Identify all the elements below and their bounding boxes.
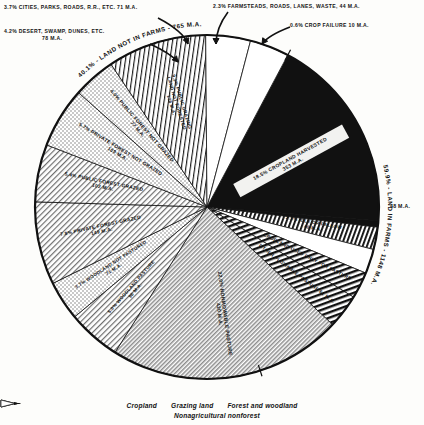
callout-desert: 4.2% DESERT, SWAMP, DUNES, ETC. 78 M.A. [4, 28, 104, 43]
legend-row-1: Cropland Grazing land Forest and woodlan… [0, 402, 424, 409]
callout-desert-line2: 78 M.A. [4, 35, 62, 42]
callout-cities: 3.7% CITIES, PARKS, ROADS, R.R., ETC. 71… [4, 4, 137, 11]
legend-item-cropland: Cropland [127, 402, 158, 409]
legend-label-cropland: Cropland [127, 402, 158, 409]
legend-label-nonag: Nonagricultural nonforest [174, 412, 260, 419]
legend-row-2: Nonagricultural nonforest [0, 412, 424, 419]
legend-label-forest: Forest and woodland [227, 402, 297, 409]
pie-slices [35, 35, 379, 379]
callout-farmsteads: 2.3% FARMSTEADS, ROADS, LANES, WASTE, 44… [213, 3, 360, 10]
legend-item-grazing: Grazing land [171, 402, 213, 409]
chart-canvas: 59.9% - LAND IN FARMS - 1148 M.A.40.1% -… [0, 0, 424, 425]
callout-desert-line1: 4.2% DESERT, SWAMP, DUNES, ETC. [4, 28, 104, 34]
pie-chart: 59.9% - LAND IN FARMS - 1148 M.A.40.1% -… [0, 0, 424, 425]
legend-swatch-nonag-icon [0, 399, 22, 408]
callout-crop-failure: 0.6% CROP FAILURE 10 M.A. [290, 22, 369, 29]
edge-marker-48: 48 M.A. [390, 203, 410, 209]
legend: Cropland Grazing land Forest and woodlan… [0, 399, 424, 419]
legend-item-nonag: Nonagricultural nonforest [174, 412, 260, 419]
legend-item-forest: Forest and woodland [227, 402, 297, 409]
legend-label-grazing: Grazing land [171, 402, 213, 409]
